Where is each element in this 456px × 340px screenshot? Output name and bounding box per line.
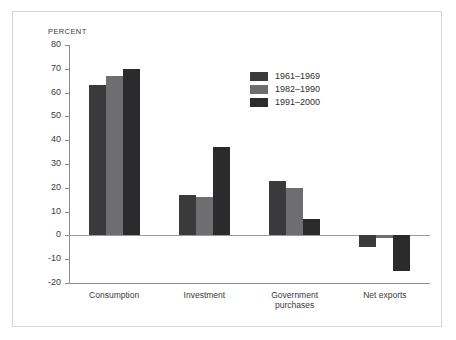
y-tick-mark <box>65 116 70 117</box>
y-tick-label: 0 <box>56 229 61 239</box>
bar <box>106 76 123 235</box>
y-tick-mark <box>65 259 70 260</box>
y-tick-label: -20 <box>48 277 61 287</box>
y-tick-mark <box>65 93 70 94</box>
legend-swatch <box>250 72 268 81</box>
legend-label: 1991–2000 <box>275 97 320 107</box>
y-tick-mark <box>65 69 70 70</box>
legend-label: 1982–1990 <box>275 84 320 94</box>
bar <box>393 235 410 271</box>
bar <box>286 188 303 236</box>
category-label: Net exports <box>340 290 430 300</box>
bar <box>359 235 376 247</box>
y-tick-mark <box>65 212 70 213</box>
y-tick-label: 80 <box>51 39 61 49</box>
bar <box>123 69 140 236</box>
x-axis-line <box>69 283 430 284</box>
legend-swatch <box>250 98 268 107</box>
category-label: Government purchases <box>250 290 340 310</box>
y-tick-mark <box>65 45 70 46</box>
bar <box>179 195 196 235</box>
bar <box>196 197 213 235</box>
grouped-bar-chart: PERCENT 80706050403020100-10-20 Consumpt… <box>0 0 456 340</box>
y-tick-label: -10 <box>48 253 61 263</box>
y-tick-label: 60 <box>51 87 61 97</box>
y-tick-label: 30 <box>51 158 61 168</box>
bar <box>376 235 393 237</box>
legend-label: 1961–1969 <box>275 71 320 81</box>
legend-swatch <box>250 85 268 94</box>
category-label: Investment <box>159 290 249 300</box>
y-tick-mark <box>65 283 70 284</box>
category-label: Consumption <box>69 290 159 300</box>
y-tick-mark <box>65 235 70 236</box>
y-tick-mark <box>65 164 70 165</box>
y-tick-label: 10 <box>51 206 61 216</box>
bar <box>303 219 320 236</box>
y-tick-mark <box>65 140 70 141</box>
y-tick-label: 20 <box>51 182 61 192</box>
y-tick-label: 50 <box>51 110 61 120</box>
y-axis-title: PERCENT <box>48 27 87 36</box>
y-tick-label: 40 <box>51 134 61 144</box>
bar <box>269 181 286 236</box>
bar <box>89 85 106 235</box>
y-tick-mark <box>65 188 70 189</box>
bar <box>213 147 230 235</box>
y-tick-label: 70 <box>51 63 61 73</box>
